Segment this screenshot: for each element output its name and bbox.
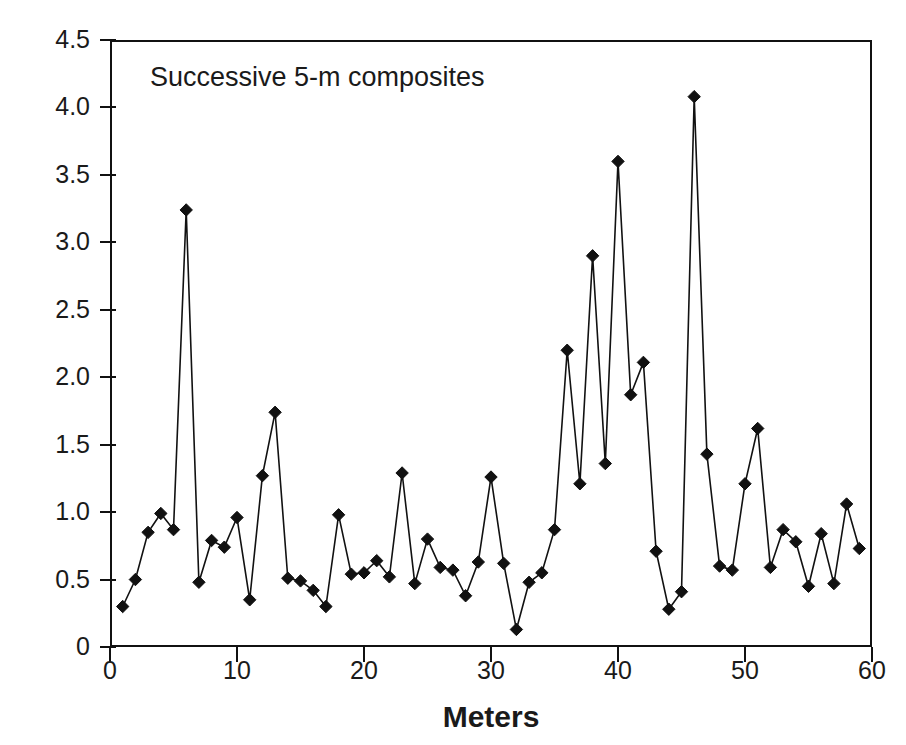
x-axis-tick-label: 20 (329, 658, 399, 683)
y-axis-tick (100, 376, 116, 378)
data-point-marker (726, 564, 738, 576)
data-point-marker (421, 533, 433, 545)
data-point-marker (663, 603, 675, 615)
data-point-marker (802, 580, 814, 592)
data-point-marker (853, 542, 865, 554)
data-point-marker (701, 448, 713, 460)
x-axis-tick-label: 0 (75, 658, 145, 683)
data-point-marker (117, 600, 129, 612)
data-point-marker (142, 526, 154, 538)
data-point-marker (586, 250, 598, 262)
plot-annotation: Successive 5-m composites (150, 62, 485, 93)
data-line (123, 97, 860, 630)
data-point-marker (218, 541, 230, 553)
y-axis-tick (100, 646, 116, 648)
y-axis-tick (100, 241, 116, 243)
data-point-marker (548, 523, 560, 535)
data-point-marker (675, 585, 687, 597)
y-axis-tick-label: 3.5 (28, 162, 90, 187)
x-axis-tick-label: 50 (710, 658, 780, 683)
data-point-marker (561, 344, 573, 356)
x-axis-tick-label: 60 (837, 658, 906, 683)
y-axis-tick (100, 579, 116, 581)
data-point-marker (244, 594, 256, 606)
data-point-marker (485, 471, 497, 483)
y-axis-tick (100, 174, 116, 176)
data-point-marker (231, 511, 243, 523)
data-point-marker (294, 575, 306, 587)
data-point-marker (637, 356, 649, 368)
data-point-marker (129, 573, 141, 585)
data-point-marker (764, 561, 776, 573)
y-axis-tick-label: 0.5 (28, 567, 90, 592)
data-point-marker (409, 577, 421, 589)
x-axis-title: Meters (110, 700, 872, 734)
y-axis-tick (100, 309, 116, 311)
data-point-marker (510, 623, 522, 635)
y-axis-tick-label: 2.5 (28, 297, 90, 322)
chart-figure: Au (g/t) Successive 5-m composites 00.51… (0, 0, 906, 745)
data-point-marker (269, 406, 281, 418)
data-point-marker (688, 90, 700, 102)
data-point-marker (815, 527, 827, 539)
data-point-marker (536, 567, 548, 579)
data-point-marker (739, 478, 751, 490)
y-axis-tick-label: 0 (28, 634, 90, 659)
data-series-layer (110, 40, 872, 647)
y-axis-tick-label: 4.5 (28, 27, 90, 52)
y-axis-tick-label: 1.5 (28, 432, 90, 457)
x-axis-tick-label: 30 (456, 658, 526, 683)
data-point-marker (193, 576, 205, 588)
data-markers (117, 90, 866, 635)
data-point-marker (828, 577, 840, 589)
data-point-marker (332, 509, 344, 521)
data-point-marker (459, 590, 471, 602)
data-point-marker (599, 457, 611, 469)
data-point-marker (256, 469, 268, 481)
y-axis-tick (100, 444, 116, 446)
data-point-marker (650, 545, 662, 557)
data-point-marker (625, 389, 637, 401)
data-point-marker (612, 155, 624, 167)
data-point-marker (205, 534, 217, 546)
x-axis-tick-label: 10 (202, 658, 272, 683)
y-axis-tick (100, 106, 116, 108)
y-axis-tick-label: 4.0 (28, 94, 90, 119)
x-axis-tick-label: 40 (583, 658, 653, 683)
data-point-marker (396, 467, 408, 479)
y-axis-tick-label: 2.0 (28, 364, 90, 389)
data-point-marker (282, 572, 294, 584)
data-point-marker (472, 556, 484, 568)
y-axis-tick (100, 39, 116, 41)
data-point-marker (840, 498, 852, 510)
data-point-marker (447, 564, 459, 576)
data-point-marker (180, 204, 192, 216)
y-axis-tick-label: 1.0 (28, 499, 90, 524)
data-point-marker (498, 557, 510, 569)
data-point-marker (345, 568, 357, 580)
data-point-marker (574, 478, 586, 490)
y-axis-tick-label: 3.0 (28, 229, 90, 254)
data-point-marker (523, 576, 535, 588)
data-point-marker (752, 422, 764, 434)
y-axis-tick (100, 511, 116, 513)
data-point-marker (434, 561, 446, 573)
data-point-marker (713, 560, 725, 572)
